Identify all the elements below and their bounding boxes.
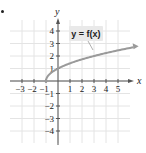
- x-tick-label: 5: [116, 84, 121, 94]
- curve-arrow-icon: [133, 43, 139, 49]
- curve-start-point: [44, 79, 47, 82]
- x-tick-label: −3: [15, 84, 25, 94]
- y-axis-arrow-icon: [56, 18, 60, 24]
- label-leader-line: [88, 41, 93, 50]
- x-axis-label: x: [136, 75, 142, 86]
- y-tick-label: 4: [50, 26, 55, 36]
- function-graph: xy−3−2−1123454321−1−2−3−4y = f(x): [0, 0, 146, 153]
- function-label: y = f(x): [71, 29, 100, 39]
- y-tick-label: −1: [44, 89, 54, 99]
- x-tick-label: −2: [27, 84, 37, 94]
- x-axis-arrow-icon: [128, 79, 134, 83]
- x-tick-label: 3: [92, 84, 97, 94]
- y-tick-label: −4: [44, 126, 54, 136]
- x-tick-label: 2: [80, 84, 85, 94]
- y-tick-label: 3: [50, 39, 55, 49]
- y-axis-label: y: [54, 6, 60, 17]
- y-tick-label: −2: [44, 101, 54, 111]
- y-tick-label: −3: [44, 114, 54, 124]
- x-tick-label: 1: [68, 84, 73, 94]
- function-curve: [46, 47, 134, 81]
- y-tick-label: 2: [50, 51, 55, 61]
- x-tick-label: 4: [104, 84, 109, 94]
